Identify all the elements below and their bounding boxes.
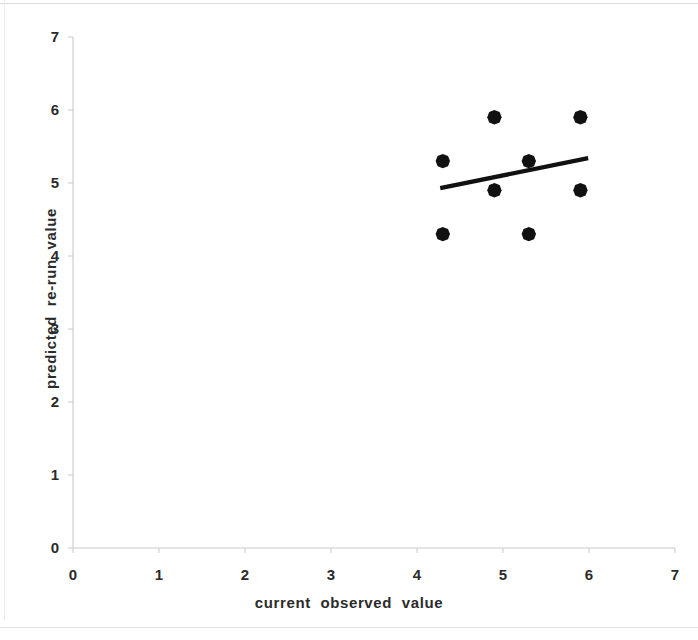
y-axis-tick-label: 0 [37,539,59,556]
x-axis-tick-label: 5 [492,566,514,583]
y-axis-tick-label: 7 [37,28,59,45]
data-point [522,227,536,241]
data-point [436,227,450,241]
x-axis-tick-label: 7 [664,566,686,583]
x-axis-tick-label: 0 [62,566,84,583]
y-axis-title: predicted re-run value [42,89,59,509]
x-axis-tick-label: 4 [406,566,428,583]
plot-canvas [0,0,698,640]
data-point [573,110,587,124]
x-axis-tick-label: 6 [578,566,600,583]
data-point [573,183,587,197]
data-point [487,110,501,124]
x-axis-tick-label: 2 [234,566,256,583]
y-axis-ticks [68,37,73,548]
data-point [436,154,450,168]
trend-line [440,158,588,188]
trend-line-segment [440,158,588,188]
x-axis-ticks [73,548,675,553]
x-axis-tick-label: 1 [148,566,170,583]
x-axis-title: current observed value [0,594,698,611]
scatter-plot-figure: 01234567 01234567 predicted re-run value… [0,0,698,640]
data-point [522,154,536,168]
x-axis-tick-label: 3 [320,566,342,583]
data-point [487,183,501,197]
